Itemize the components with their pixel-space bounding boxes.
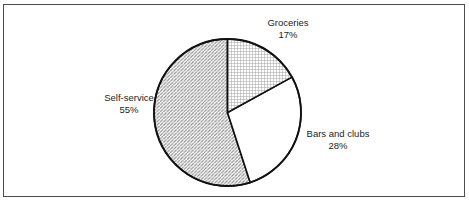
pie-label-bars-and-clubs: Bars and clubs 28% — [296, 128, 380, 151]
pie-label-self-service-value: 55% — [91, 104, 167, 116]
pie-label-self-service-name: Self-service — [104, 92, 154, 103]
pie-label-bars-and-clubs-name: Bars and clubs — [307, 128, 370, 139]
pie-label-groceries-name: Groceries — [267, 17, 308, 28]
pie-label-self-service: Self-service 55% — [91, 92, 167, 115]
pie-chart-screenshot: Groceries 17% Bars and clubs 28% Self-se… — [0, 0, 469, 205]
pie-label-bars-and-clubs-value: 28% — [296, 140, 380, 152]
pie-label-groceries-value: 17% — [252, 29, 324, 41]
pie-label-groceries: Groceries 17% — [252, 17, 324, 40]
pie-chart-graphic — [0, 0, 469, 205]
